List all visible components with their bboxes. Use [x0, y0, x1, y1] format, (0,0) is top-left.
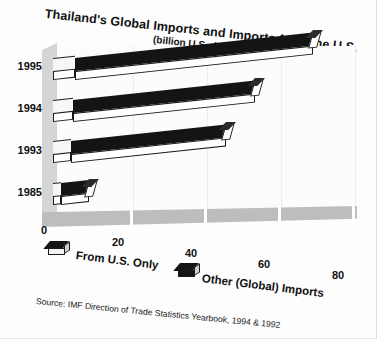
x-tick-80: 80 — [332, 269, 344, 281]
x-tick-20: 20 — [112, 236, 124, 248]
bar-front-from-us-1993 — [53, 152, 71, 163]
chart-floor — [42, 206, 357, 242]
floor-tick-20 — [130, 206, 133, 228]
chart-figure: Thailand's Global Imports and Imports fr… — [0, 0, 377, 339]
legend-swatch-other-global-icon — [178, 263, 200, 278]
legend-swatch-from-us-icon — [48, 241, 70, 256]
floor-band — [42, 206, 357, 228]
x-tick-0: 0 — [41, 224, 47, 236]
y-tick-1994: 1994 — [2, 102, 42, 114]
floor-tick-60 — [278, 206, 281, 228]
bar-front-from-us-1985 — [53, 195, 61, 205]
floor-tick-40 — [204, 206, 207, 228]
floor-tick-80 — [352, 206, 355, 228]
y-axis: 1995 1994 1993 1985 — [0, 0, 42, 339]
x-tick-40: 40 — [185, 247, 197, 259]
gridline-80 — [355, 46, 356, 218]
y-tick-1985: 1985 — [2, 186, 42, 198]
y-tick-1995: 1995 — [2, 60, 42, 72]
y-tick-1993: 1993 — [2, 144, 42, 156]
x-tick-60: 60 — [258, 258, 270, 270]
